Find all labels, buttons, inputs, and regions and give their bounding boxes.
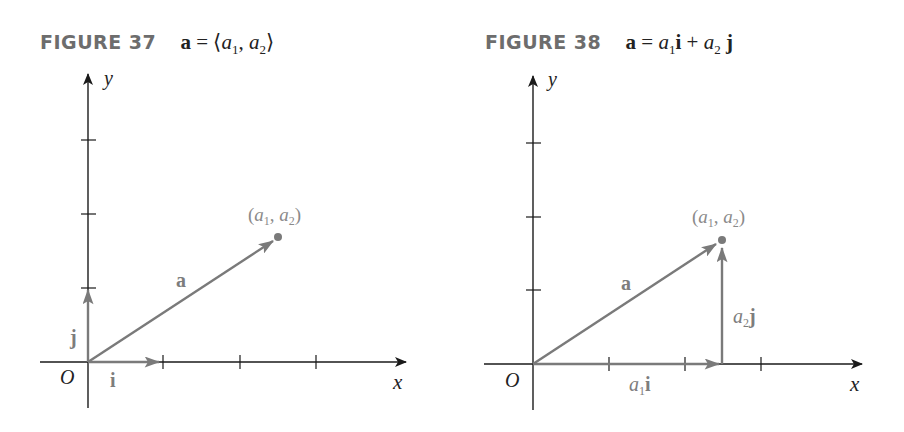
figure-37-diagram: y x O a i j (a1, a2) bbox=[40, 67, 406, 408]
origin-label: O bbox=[60, 366, 74, 388]
vector-a1-i-label: a1i bbox=[629, 373, 651, 398]
x-axis-label: x bbox=[392, 370, 403, 394]
vector-a-label: a bbox=[621, 272, 631, 294]
point-label: (a1, a2) bbox=[692, 206, 745, 230]
point-a1-a2 bbox=[718, 236, 726, 244]
vector-a bbox=[533, 244, 716, 364]
point-label: (a1, a2) bbox=[248, 204, 301, 228]
origin-label: O bbox=[505, 369, 519, 391]
x-axis-label: x bbox=[849, 372, 860, 396]
vector-a bbox=[88, 241, 273, 362]
figure-38-diagram: y x O a a1i a2j (a1, a2) bbox=[484, 68, 862, 410]
vector-a2-j-label: a2j bbox=[733, 305, 756, 330]
y-axis-label: y bbox=[546, 68, 557, 91]
point-a1-a2 bbox=[274, 233, 282, 241]
vector-i-label: i bbox=[110, 369, 116, 391]
diagrams-canvas: y x O a i j (a1, a2) y x O a a1i a2j (a1… bbox=[0, 0, 904, 432]
vector-a-label: a bbox=[176, 269, 186, 291]
vector-j-label: j bbox=[69, 326, 77, 349]
y-axis-label: y bbox=[102, 67, 113, 90]
